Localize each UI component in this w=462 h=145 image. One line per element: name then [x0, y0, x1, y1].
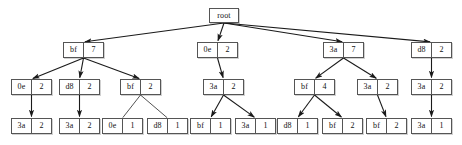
node-key: 3a	[204, 80, 224, 94]
node-key: bf	[367, 119, 387, 133]
tree-node: 3a2	[357, 79, 398, 95]
node-count: 1	[256, 119, 275, 133]
tree-node: 3a2	[411, 79, 452, 95]
node-count: 1	[211, 119, 230, 133]
node-key: d8	[60, 80, 80, 94]
tree-node: 3a2	[203, 79, 244, 95]
tree-node: 3a1	[411, 118, 452, 134]
tree-node: 0e1	[102, 118, 143, 134]
tree-node: d81	[147, 118, 188, 134]
node-count: 2	[432, 43, 451, 57]
tree-edge-arrow	[344, 58, 377, 78]
tree-node: bf2	[120, 79, 161, 95]
node-count: 2	[141, 80, 160, 94]
node-key: 3a	[60, 119, 80, 133]
node-key: 3a	[358, 80, 378, 94]
node-count: 2	[32, 80, 51, 94]
node-count: 2	[378, 80, 397, 94]
node-key: d8	[148, 119, 168, 133]
tree-node: 3a2	[11, 118, 52, 134]
tree-node: 0e2	[11, 79, 52, 95]
tree-edge-arrow	[218, 23, 224, 41]
node-key: 3a	[236, 119, 256, 133]
tree-edge-arrow	[224, 95, 255, 117]
node-count: 2	[224, 80, 243, 94]
node-count: 2	[343, 119, 362, 133]
tree-node: bf2	[366, 118, 407, 134]
node-key: 3a	[324, 43, 344, 57]
node-count: 4	[315, 80, 334, 94]
tree-node: 3a7	[323, 42, 364, 58]
tree-node: d81	[277, 118, 318, 134]
tree-node: 3a1	[235, 118, 276, 134]
node-count: 7	[84, 43, 103, 57]
tree-node: d82	[411, 42, 452, 58]
node-key: bf	[191, 119, 211, 133]
tree-node: bf2	[322, 118, 363, 134]
edges-group	[32, 23, 432, 118]
tree-node: d82	[59, 79, 100, 95]
node-count: 2	[432, 80, 451, 94]
node-key: d8	[278, 119, 298, 133]
node-key: 3a	[12, 119, 32, 133]
node-count: 1	[123, 119, 142, 133]
tree-edge-arrow	[80, 58, 84, 78]
node-key: bf	[323, 119, 343, 133]
tree-node: 0e2	[197, 42, 238, 58]
tree-edge-arrow	[298, 95, 314, 117]
node-count: 1	[432, 119, 451, 133]
tree-edge-line	[141, 95, 168, 118]
tree-edge-arrow	[378, 95, 386, 117]
node-key: 0e	[198, 43, 218, 57]
node-count: 1	[298, 119, 317, 133]
node-key: 3a	[412, 80, 432, 94]
node-key: 3a	[412, 119, 432, 133]
tree-edge-arrow	[84, 58, 140, 78]
tree-node: bf4	[294, 79, 335, 95]
tree-edge-arrow	[211, 95, 223, 117]
node-label: root	[210, 9, 238, 22]
node-count: 2	[218, 43, 237, 57]
node-count: 2	[387, 119, 406, 133]
node-key: bf	[295, 80, 315, 94]
tree-node: bf1	[190, 118, 231, 134]
node-count: 2	[80, 80, 99, 94]
tree-node-root: root	[209, 8, 239, 23]
tree-edge-arrow	[218, 58, 224, 78]
node-key: 0e	[12, 80, 32, 94]
node-count: 2	[80, 119, 99, 133]
tree-node: bf7	[63, 42, 104, 58]
node-count: 7	[344, 43, 363, 57]
node-key: bf	[64, 43, 84, 57]
node-key: d8	[412, 43, 432, 57]
tree-edge-arrow	[316, 58, 344, 78]
tree-edge-line	[123, 95, 141, 118]
node-key: bf	[121, 80, 141, 94]
tree-node: 3a2	[59, 118, 100, 134]
node-key: 0e	[103, 119, 123, 133]
node-count: 1	[168, 119, 187, 133]
node-count: 2	[32, 119, 51, 133]
tree-edge-arrow	[33, 58, 84, 78]
tree-diagram: rootbf70e23a7d820e2d82bf23a2bf43a23a23a2…	[0, 0, 462, 145]
tree-edge-arrow	[315, 95, 342, 117]
tree-edge-arrow	[85, 23, 224, 42]
